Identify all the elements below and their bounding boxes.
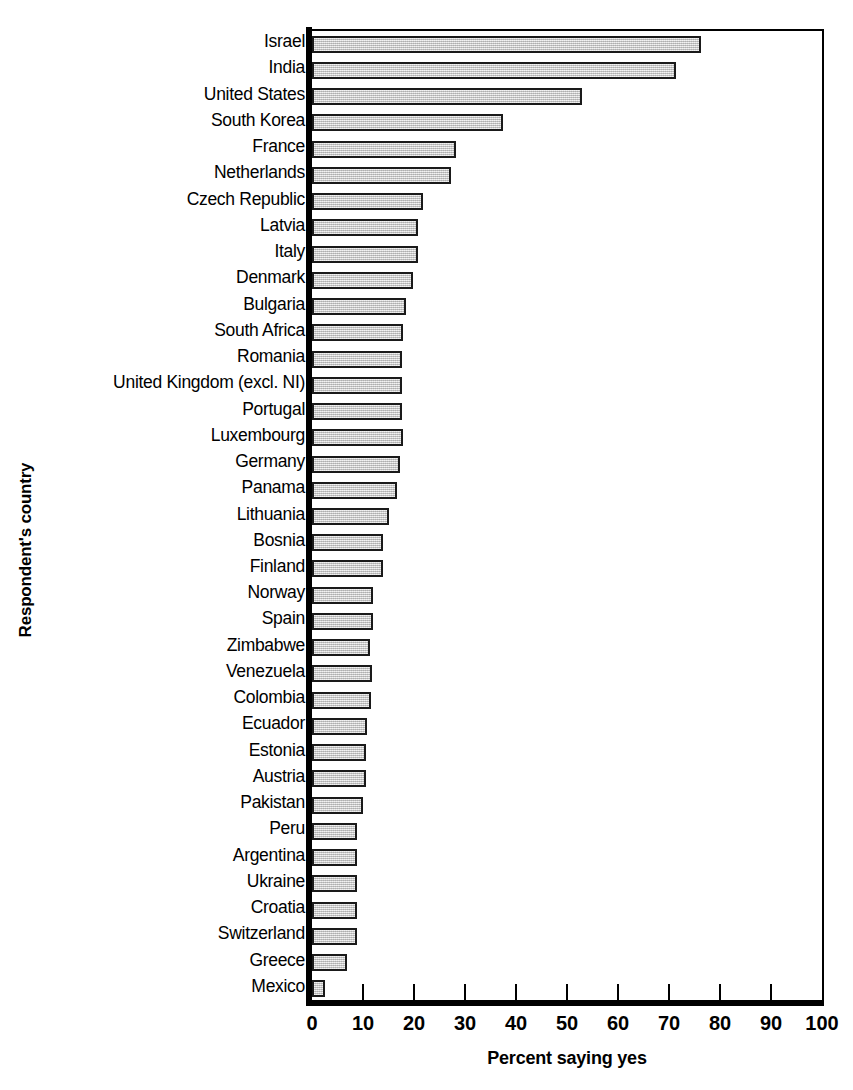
bar [312, 508, 389, 525]
bar [312, 482, 397, 499]
bar [312, 429, 403, 446]
x-axis-tick [719, 984, 721, 1000]
bar [312, 272, 413, 289]
x-axis-tick [617, 984, 619, 1000]
bar [312, 36, 701, 53]
bar [312, 902, 357, 919]
bar [312, 62, 676, 79]
x-axis-tick [770, 984, 772, 1000]
bar [312, 797, 363, 814]
category-label: Bulgaria [30, 296, 305, 314]
category-label: Panama [30, 479, 305, 497]
x-axis-tick [362, 984, 364, 1000]
category-label: United States [30, 86, 305, 104]
category-label: Germany [30, 453, 305, 471]
x-axis-tick [464, 984, 466, 1000]
x-axis-tick [413, 984, 415, 1000]
category-label: Latvia [30, 217, 305, 235]
bar [312, 954, 347, 971]
category-label: Zimbabwe [30, 637, 305, 655]
category-label: Romania [30, 348, 305, 366]
category-label: Pakistan [30, 794, 305, 812]
category-label: United Kingdom (excl. NI) [30, 374, 305, 392]
bar [312, 823, 357, 840]
category-label: Bosnia [30, 532, 305, 550]
bar [312, 875, 357, 892]
bar [312, 560, 383, 577]
category-label: Austria [30, 768, 305, 786]
bar [312, 377, 402, 394]
bar [312, 193, 423, 210]
bar [312, 351, 402, 368]
x-axis-title: Percent saying yes [312, 1048, 822, 1069]
x-axis-tick [668, 984, 670, 1000]
bar [312, 298, 406, 315]
category-label: Croatia [30, 899, 305, 917]
bar [312, 219, 418, 236]
bar [312, 980, 325, 997]
category-label: Greece [30, 952, 305, 970]
category-label: India [30, 59, 305, 77]
category-label: Portugal [30, 401, 305, 419]
bar [312, 324, 403, 341]
category-label: France [30, 138, 305, 156]
x-axis-tick [566, 984, 568, 1000]
category-label: Luxembourg [30, 427, 305, 445]
bar [312, 88, 582, 105]
category-label: Colombia [30, 689, 305, 707]
bar [312, 849, 357, 866]
bar [312, 456, 400, 473]
category-label: Italy [30, 243, 305, 261]
bar [312, 534, 383, 551]
category-label: Netherlands [30, 164, 305, 182]
bar [312, 639, 370, 656]
bar [312, 692, 371, 709]
bar [312, 718, 367, 735]
bar [312, 246, 418, 263]
category-label: South Korea [30, 112, 305, 130]
category-label: Norway [30, 584, 305, 602]
bar [312, 167, 451, 184]
category-label: Czech Republic [30, 191, 305, 209]
category-label: Finland [30, 558, 305, 576]
category-label: Ecuador [30, 715, 305, 733]
category-label: Denmark [30, 269, 305, 287]
bar [312, 744, 366, 761]
plot-area [312, 29, 824, 1002]
bar [312, 665, 372, 682]
category-label-list: IsraelIndiaUnited StatesSouth KoreaFranc… [30, 29, 305, 1000]
x-axis-tick [515, 984, 517, 1000]
category-label: Peru [30, 820, 305, 838]
category-label: Spain [30, 610, 305, 628]
bar [312, 770, 366, 787]
category-label: Ukraine [30, 873, 305, 891]
category-label: Switzerland [30, 925, 305, 943]
bar [312, 613, 373, 630]
category-label: Mexico [30, 978, 305, 996]
bar-chart: Respondent's country IsraelIndiaUnited S… [0, 0, 853, 1090]
category-label: Lithuania [30, 506, 305, 524]
bar [312, 114, 503, 131]
x-axis-tick-label: 100 [792, 1012, 852, 1035]
category-label: Venezuela [30, 663, 305, 681]
bar [312, 403, 402, 420]
category-label: Estonia [30, 742, 305, 760]
category-label: Argentina [30, 847, 305, 865]
category-label: South Africa [30, 322, 305, 340]
bar [312, 141, 456, 158]
bar [312, 928, 357, 945]
category-label: Israel [30, 33, 305, 51]
bar [312, 587, 373, 604]
